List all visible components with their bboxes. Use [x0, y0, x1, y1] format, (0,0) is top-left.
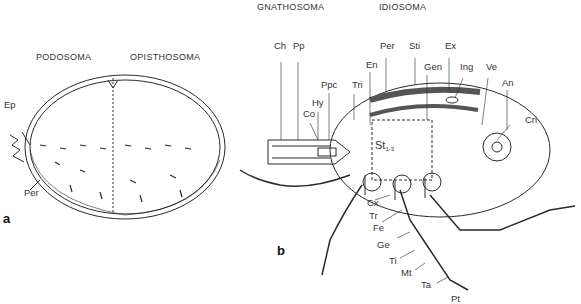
- label-ep: Ep: [4, 100, 16, 110]
- label-per-b: Per: [380, 41, 395, 51]
- label-hy: Hy: [312, 98, 324, 108]
- label-an: An: [502, 78, 514, 88]
- panel-letter-a: a: [3, 212, 10, 225]
- label-ch: Ch: [274, 41, 286, 51]
- label-pp: Pp: [293, 41, 305, 51]
- label-mt: Mt: [401, 268, 412, 278]
- label-ing: Ing: [460, 62, 473, 72]
- label-st-subscript: 1-3: [385, 146, 394, 152]
- label-pt: Pt: [451, 294, 460, 304]
- label-ta: Ta: [421, 280, 431, 290]
- region-label-idiosoma: IDIOSOMA: [379, 3, 426, 12]
- label-ti: Ti: [389, 256, 397, 266]
- panel-b-body: [240, 58, 575, 290]
- label-ex: Ex: [445, 41, 456, 51]
- label-st: St1-3: [375, 140, 394, 152]
- label-ve: Ve: [486, 62, 497, 72]
- label-gen: Gen: [424, 62, 442, 72]
- region-label-opisthosoma: OPISTHOSOMA: [130, 53, 200, 62]
- label-fe: Fe: [373, 223, 384, 233]
- label-cri: Cri: [525, 115, 537, 125]
- label-cx: Cx: [367, 198, 379, 208]
- region-label-gnathosoma: GNATHOSOMA: [257, 3, 324, 12]
- label-ppc: Ppc: [321, 80, 337, 90]
- panel-letter-b: b: [277, 244, 285, 257]
- label-en: En: [366, 60, 378, 70]
- label-tr: Tr: [369, 211, 378, 221]
- label-ge: Ge: [377, 240, 390, 250]
- label-co: Co: [303, 109, 315, 119]
- label-per-a: Per: [24, 188, 39, 198]
- label-sti: Sti: [409, 41, 420, 51]
- label-tri: Tri: [352, 80, 363, 90]
- anatomy-drawing: [0, 0, 581, 304]
- panel-a-body: [10, 75, 225, 219]
- region-label-podosoma: PODOSOMA: [36, 53, 91, 62]
- label-st-main: St: [375, 139, 385, 151]
